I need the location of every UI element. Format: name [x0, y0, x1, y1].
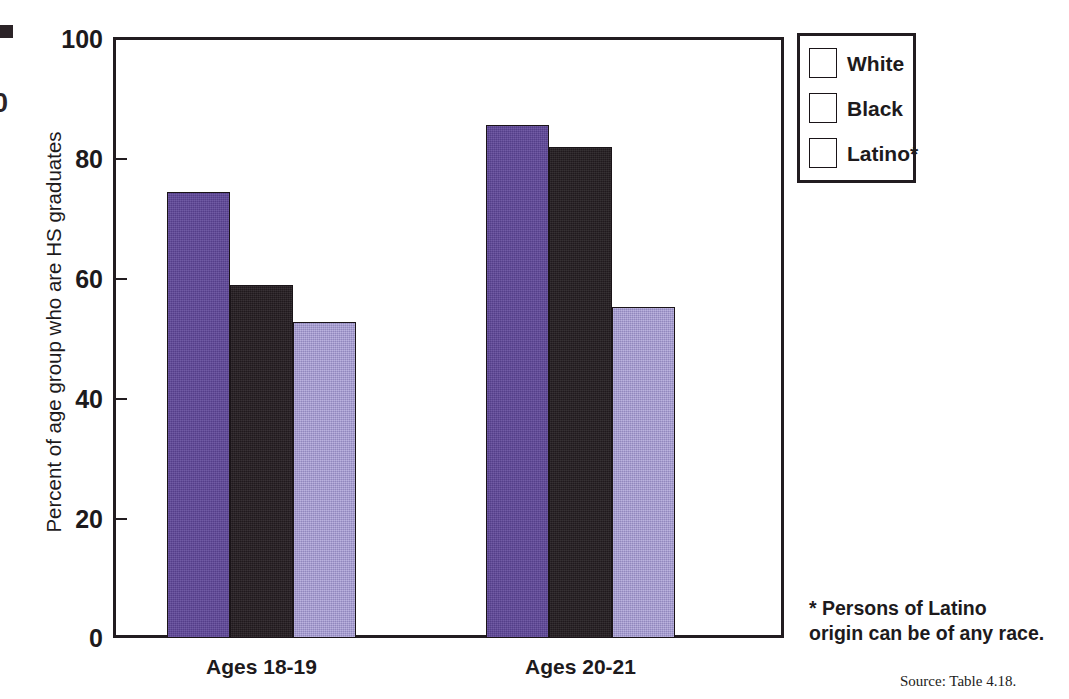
y-tick-mark-80	[113, 158, 127, 160]
footnote: * Persons of Latino origin can be of any…	[809, 596, 1064, 646]
legend-label-white: White	[847, 53, 904, 74]
legend-swatch-white-icon	[809, 48, 837, 78]
legend: White Black Latino*	[797, 33, 916, 183]
footnote-line-1: * Persons of Latino	[809, 596, 1064, 621]
legend-item-latino[interactable]: Latino*	[809, 138, 918, 168]
legend-item-black[interactable]: Black	[809, 93, 903, 123]
y-tick-mark-60	[113, 278, 127, 280]
y-tick-mark-20	[113, 518, 127, 520]
bar-ages-20-21-black[interactable]	[549, 147, 612, 638]
legend-swatch-black-icon	[809, 93, 837, 123]
legend-label-latino: Latino*	[847, 143, 918, 164]
source-note: Source: Table 4.18.	[900, 673, 1016, 690]
legend-item-white[interactable]: White	[809, 48, 904, 78]
legend-label-black: Black	[847, 98, 903, 119]
bar-ages-18-19-white[interactable]	[167, 192, 230, 638]
footnote-line-2: origin can be of any race.	[809, 621, 1064, 646]
x-axis-label-ages-18-19: Ages 18-19	[167, 655, 356, 679]
bar-ages-18-19-latino[interactable]	[293, 322, 356, 638]
bar-ages-18-19-black[interactable]	[230, 285, 293, 638]
y-tick-mark-40	[113, 398, 127, 400]
bar-ages-20-21-latino[interactable]	[612, 307, 675, 638]
legend-swatch-latino-icon	[809, 138, 837, 168]
bar-ages-20-21-white[interactable]	[486, 125, 549, 638]
y-axis-title: Percent of age group who are HS graduate…	[42, 72, 66, 592]
x-axis-label-ages-20-21: Ages 20-21	[486, 655, 675, 679]
bar-chart: Percent of age group who are HS graduate…	[0, 0, 1069, 699]
